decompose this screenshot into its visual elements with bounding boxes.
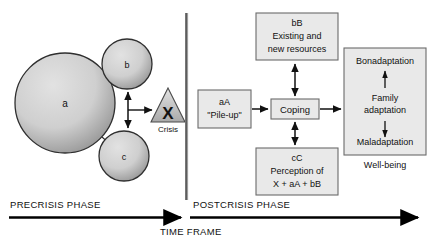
box-cC-line-2: Perception of [270,166,324,176]
box-bB-line-2: Existing and [272,31,321,41]
circle-a-label: a [62,98,68,109]
time-frame-label: TIME FRAME [160,226,222,237]
box-bB-line-3: new resources [268,44,327,54]
box-aA [198,90,251,128]
crisis-symbol: X [162,104,174,123]
box-coping-label: Coping [280,104,310,115]
circle-b-label: b [124,60,129,70]
postcrisis-phase-label: POSTCRISIS PHASE [193,199,290,210]
box-aA-line-1: aA [219,97,230,107]
figure-canvas: a b c X Crisis bB Existing and new resou… [0,0,431,241]
circle-c-label: c [122,152,127,162]
box-aA-line-2: "Pile-up" [207,110,241,120]
phase-divider [185,13,188,200]
box-bB-line-1: bB [291,18,302,28]
box-cC-line-3: X + aA + bB [273,179,321,189]
crisis-label: Crisis [158,125,178,134]
label-bonadaptation: Bonadaptation [356,56,414,66]
box-cC-line-1: cC [292,153,304,163]
label-family-adaptation-line-1: Family [372,93,399,103]
double-abcx-diagram: a b c X Crisis bB Existing and new resou… [0,0,431,241]
precrisis-phase-label: PRECRISIS PHASE [10,199,101,210]
label-family-adaptation-line-2: adaptation [364,105,406,115]
label-maladaptation: Maladaptation [357,137,414,147]
label-well-being: Well-being [364,160,406,170]
